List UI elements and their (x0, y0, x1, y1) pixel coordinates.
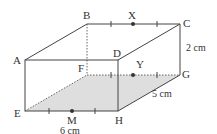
point-X (131, 22, 135, 26)
label-H: H (115, 114, 123, 126)
edge-AB (25, 24, 87, 60)
cuboid-diagram: A B C D E F G H X Y M 2 cm 5 cm 6 cm (0, 0, 217, 134)
label-Y: Y (136, 58, 144, 70)
edge-DC (118, 24, 180, 60)
point-Y (131, 73, 135, 77)
label-F: F (78, 62, 84, 74)
label-B: B (83, 9, 90, 21)
label-C: C (183, 17, 190, 29)
point-M (70, 109, 74, 113)
label-E: E (14, 107, 21, 119)
label-A: A (13, 54, 21, 66)
label-G: G (182, 68, 190, 80)
dimension-height: 2 cm (186, 42, 206, 53)
label-X: X (128, 9, 136, 21)
dimension-depth: 5 cm (152, 88, 172, 99)
label-D: D (113, 47, 121, 59)
dimension-length: 6 cm (60, 125, 80, 134)
